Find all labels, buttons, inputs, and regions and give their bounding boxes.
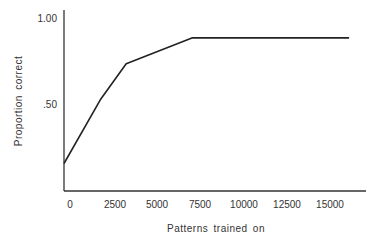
y-tick-label: .50 (43, 99, 57, 110)
x-tick-label: 2500 (104, 199, 127, 210)
x-tick-label: 7500 (189, 199, 212, 210)
y-axis-title: Proportion correct (13, 56, 24, 146)
x-axis-title: Patterns trained on (167, 223, 265, 234)
y-tick-label: 1.00 (38, 13, 58, 24)
x-tick-label: 15000 (316, 199, 344, 210)
x-tick-label: 0 (67, 199, 73, 210)
x-tick-label: 12500 (273, 199, 301, 210)
x-tick-label: 10000 (230, 199, 258, 210)
x-tick-label: 5000 (146, 199, 169, 210)
line-chart: 1.00 .50 0 2500 5000 7500 10000 12500 15… (0, 0, 379, 238)
data-line (64, 38, 349, 164)
